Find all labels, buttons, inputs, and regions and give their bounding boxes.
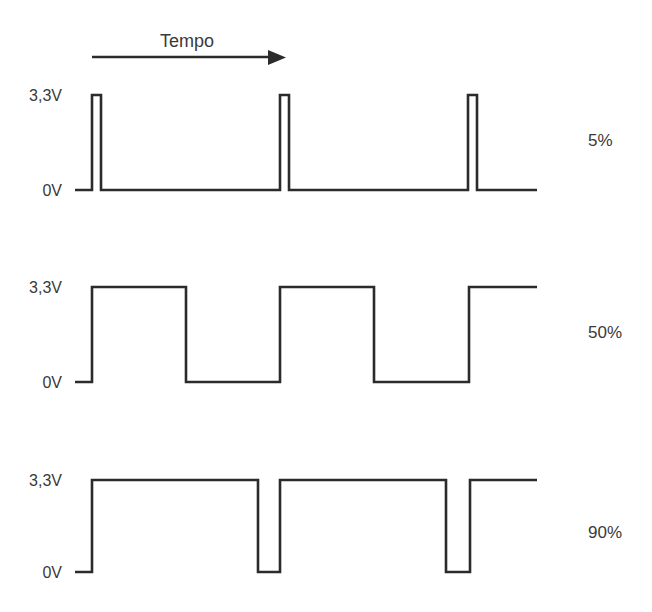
duty-cycle-label-90-percent: 90% <box>588 523 622 542</box>
waveform-path-50-percent <box>75 287 537 382</box>
y-axis-high-label-row2: 3,3V <box>29 279 62 296</box>
waveform-path-5-percent <box>75 95 537 190</box>
waveform-path-90-percent <box>75 480 537 572</box>
waveform-row-90-percent: 3,3V 0V 90% <box>29 472 622 581</box>
waveform-row-50-percent: 3,3V 0V 50% <box>29 279 622 391</box>
pwm-duty-cycle-figure: Tempo 3,3V 0V 5% 3,3V 0V 50% 3,3V 0V 90% <box>0 0 652 612</box>
duty-cycle-label-5-percent: 5% <box>588 131 613 150</box>
y-axis-high-label-row3: 3,3V <box>29 472 62 489</box>
duty-cycle-label-50-percent: 50% <box>588 323 622 342</box>
time-axis-title: Tempo <box>160 31 214 51</box>
y-axis-low-label-row1: 0V <box>42 182 62 199</box>
y-axis-low-label-row3: 0V <box>42 564 62 581</box>
y-axis-low-label-row2: 0V <box>42 374 62 391</box>
waveform-row-5-percent: 3,3V 0V 5% <box>29 87 613 199</box>
pwm-diagram: Tempo 3,3V 0V 5% 3,3V 0V 50% 3,3V 0V 90% <box>0 0 652 612</box>
time-axis-arrow-group: Tempo <box>92 31 286 65</box>
time-arrow-head-icon <box>268 50 286 65</box>
y-axis-high-label-row1: 3,3V <box>29 87 62 104</box>
